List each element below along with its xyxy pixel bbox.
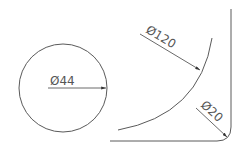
cad-drawing: Ø44 Ø120 Ø20: [0, 0, 248, 151]
dia20-label: Ø20: [198, 98, 226, 125]
dia44-label: Ø44: [50, 74, 75, 88]
large-arc: [118, 38, 212, 130]
